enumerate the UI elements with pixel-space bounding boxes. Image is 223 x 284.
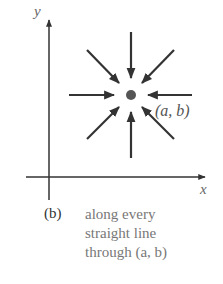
caption-line-3: through (a, b) xyxy=(85,243,167,262)
x-axis-label: x xyxy=(200,180,207,198)
point-ab xyxy=(126,90,136,100)
caption-text: along every straight line through (a, b) xyxy=(85,205,167,262)
caption-line-1: along every xyxy=(85,205,167,224)
point-label: (a, b) xyxy=(155,102,190,120)
caption-part-label: (b) xyxy=(44,205,62,222)
y-axis-label: y xyxy=(34,2,41,20)
caption-line-2: straight line xyxy=(85,224,167,243)
